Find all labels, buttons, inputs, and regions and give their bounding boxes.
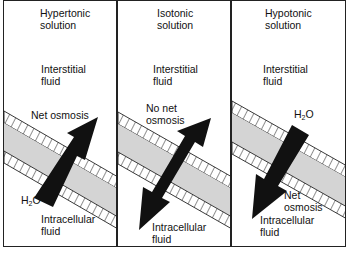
label-interstitial-fluid: Interstitialfluid: [41, 63, 86, 87]
title-isotonic: Isotonicsolution: [157, 7, 193, 31]
label-intracellular-fluid: Intracellularfluid: [152, 221, 206, 245]
label-interstitial-fluid: Interstitialfluid: [263, 63, 308, 87]
label-no-net-osmosis: No netosmosis: [146, 102, 185, 126]
label-intracellular-fluid: Intracellularfluid: [260, 214, 314, 238]
osmosis-diagram: Hypertonicsolution Interstitialfluid Net…: [0, 0, 349, 253]
label-net-osmosis: Net osmosis: [31, 109, 89, 121]
label-net-osmosis: Netosmosis: [284, 189, 323, 213]
panel-hypertonic: Hypertonicsolution Interstitialfluid Net…: [3, 0, 117, 247]
panel-isotonic: Isotonicsolution Interstitialfluid No ne…: [117, 0, 231, 247]
label-water: H2O: [294, 108, 314, 120]
label-interstitial-fluid: Interstitialfluid: [153, 63, 198, 87]
label-intracellular-fluid: Intracellularfluid: [41, 213, 95, 237]
title-hypotonic: Hypotonicsolution: [265, 7, 312, 31]
membrane-hypertonic: [4, 1, 117, 247]
label-water: H2O: [21, 194, 41, 206]
panel-hypotonic: Hypotonicsolution Interstitialfluid H2O …: [231, 0, 346, 247]
title-hypertonic: Hypertonicsolution: [40, 7, 90, 31]
